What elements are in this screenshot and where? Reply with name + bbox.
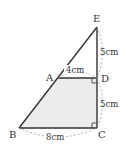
dimension-label-ad: 4cm <box>66 65 84 75</box>
shaded-trapezoid-abcd <box>19 78 97 128</box>
point-label-e: E <box>93 13 100 24</box>
dimension-label-bc: 8cm <box>46 132 64 142</box>
point-label-a: A <box>45 72 54 83</box>
dimension-label-ed: 5cm <box>100 47 118 57</box>
dimension-label-dc: 5cm <box>100 99 118 109</box>
point-label-c: C <box>98 129 106 140</box>
point-label-b: B <box>9 129 16 140</box>
point-label-d: D <box>101 73 109 84</box>
geometry-figure: E A D B C 5cm 5cm 4cm 8cm <box>0 0 127 149</box>
